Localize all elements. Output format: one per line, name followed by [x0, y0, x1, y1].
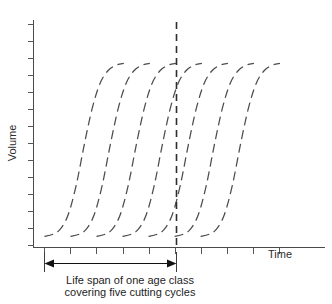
caption-line-2: covering five cutting cycles — [65, 286, 196, 298]
figure-canvas: Volume Time Life span of one age class c… — [0, 0, 332, 304]
y-axis-ticks — [28, 25, 34, 246]
growth-curve-6 — [175, 63, 254, 236]
life-span-span-arrow — [45, 252, 177, 272]
y-axis-label: Volume — [6, 125, 18, 162]
span-arrow-head-left — [45, 259, 55, 267]
x-axis-label: Time — [268, 248, 292, 260]
growth-curves-group — [44, 63, 280, 236]
growth-curve-2 — [70, 63, 149, 236]
x-axis-ticks — [45, 248, 280, 255]
growth-curve-3 — [96, 63, 175, 236]
span-arrow-head-right — [167, 259, 177, 267]
plot-area — [44, 63, 280, 236]
caption-line-1: Life span of one age class — [66, 274, 194, 286]
growth-curve-5 — [149, 63, 228, 236]
growth-curve-figure: Volume Time Life span of one age class c… — [0, 0, 332, 304]
growth-curve-4 — [123, 63, 202, 236]
growth-curve-7 — [201, 63, 280, 236]
growth-curve-1 — [44, 63, 123, 236]
